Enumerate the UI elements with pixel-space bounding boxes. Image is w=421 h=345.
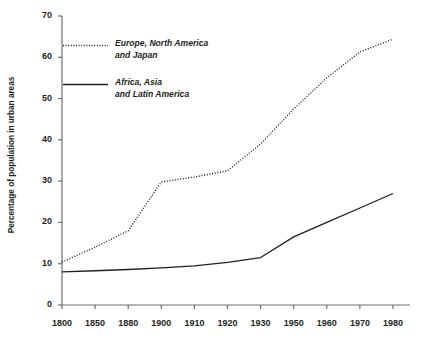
series-line-africa-asia-latin-america [62, 194, 393, 272]
y-axis-tick-label: 10 [30, 258, 52, 268]
y-axis-tick-label: 70 [30, 10, 52, 20]
legend-label-line1: Europe, North America [115, 38, 208, 48]
y-axis-tick-label: 20 [30, 216, 52, 226]
y-axis-tick-label: 40 [30, 134, 52, 144]
y-axis-tick-label: 60 [30, 51, 52, 61]
legend-item-europe-north-america-japan: Europe, North Americaand Japan [63, 38, 253, 68]
legend-label-line2: and Latin America [115, 89, 189, 99]
legend-item-africa-asia-latin-america: Africa, Asiaand Latin America [63, 77, 253, 107]
x-axis-tick-label: 1980 [373, 318, 413, 328]
y-axis-tick-label: 30 [30, 175, 52, 185]
chart-legend: Europe, North Americaand Japan Africa, A… [63, 38, 253, 107]
legend-swatch-dotted-icon [63, 44, 108, 47]
legend-label-africa-asia-latin-america: Africa, Asiaand Latin America [115, 77, 189, 100]
y-axis-tick-label: 0 [30, 299, 52, 309]
y-axis-tick-label: 50 [30, 93, 52, 103]
legend-label-europe-north-america-japan: Europe, North Americaand Japan [115, 38, 208, 61]
legend-swatch-solid-icon [63, 83, 108, 86]
urbanization-line-chart: Percentage of population in urban areas … [0, 0, 421, 345]
legend-label-line1: Africa, Asia [115, 77, 162, 87]
legend-label-line2: and Japan [115, 50, 158, 60]
